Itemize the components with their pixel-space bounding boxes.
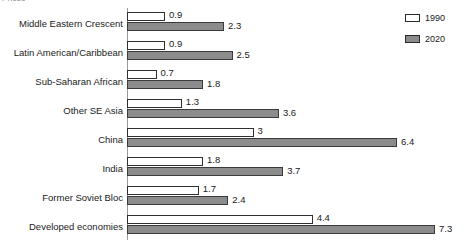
bar-row: Latin American/Caribbean0.92.5 bbox=[0, 39, 467, 68]
bar-value-label: 0.9 bbox=[169, 39, 182, 48]
bar-row: China36.4 bbox=[0, 126, 467, 155]
bar-1990 bbox=[127, 99, 182, 108]
bar-value-label: 1.8 bbox=[207, 155, 220, 164]
category-label: Middle Eastern Crescent bbox=[0, 18, 123, 29]
bar-value-label: 2.5 bbox=[237, 50, 250, 59]
category-label: China bbox=[0, 134, 123, 145]
bar-row: Other SE Asia1.33.6 bbox=[0, 97, 467, 126]
bar-value-label: 4.4 bbox=[317, 213, 330, 222]
bar-2020 bbox=[127, 51, 233, 60]
bar-1990 bbox=[127, 157, 203, 166]
bar-1990 bbox=[127, 186, 199, 195]
bar-1990 bbox=[127, 128, 254, 137]
bar-2020 bbox=[127, 80, 203, 89]
bar-value-label: 1.3 bbox=[186, 97, 199, 106]
bar-1990 bbox=[127, 215, 313, 224]
chart-screenshot: Prices 1990 2020 Middle Eastern Crescent… bbox=[0, 0, 467, 249]
cropped-title-text: Prices bbox=[2, 0, 25, 3]
category-label: India bbox=[0, 163, 123, 174]
category-label: Developed economies bbox=[0, 221, 123, 232]
bar-2020 bbox=[127, 109, 279, 118]
bar-2020 bbox=[127, 22, 224, 31]
bar-row: India1.83.7 bbox=[0, 155, 467, 184]
bar-value-label: 3.7 bbox=[287, 166, 300, 175]
bar-value-label: 1.8 bbox=[207, 79, 220, 88]
bar-row: Sub-Saharan African0.71.8 bbox=[0, 68, 467, 97]
category-label: Sub-Saharan African bbox=[0, 76, 123, 87]
bar-value-label: 0.7 bbox=[161, 68, 174, 77]
bar-value-label: 2.3 bbox=[228, 21, 241, 30]
bar-2020 bbox=[127, 225, 435, 234]
bar-2020 bbox=[127, 167, 283, 176]
category-label: Latin American/Caribbean bbox=[0, 47, 123, 58]
bar-1990 bbox=[127, 12, 165, 21]
plot-area: Middle Eastern Crescent0.92.3Latin Ameri… bbox=[0, 8, 467, 244]
bar-row: Developed economies4.47.3 bbox=[0, 213, 467, 242]
bar-1990 bbox=[127, 70, 157, 79]
bar-2020 bbox=[127, 196, 228, 205]
bar-value-label: 3 bbox=[258, 126, 263, 135]
category-label: Former Soviet Bloc bbox=[0, 192, 123, 203]
bar-1990 bbox=[127, 41, 165, 50]
bar-value-label: 1.7 bbox=[203, 184, 216, 193]
bar-value-label: 0.9 bbox=[169, 10, 182, 19]
bar-row: Former Soviet Bloc1.72.4 bbox=[0, 184, 467, 213]
bar-value-label: 2.4 bbox=[232, 195, 245, 204]
category-label: Other SE Asia bbox=[0, 105, 123, 116]
bar-value-label: 6.4 bbox=[401, 137, 414, 146]
bar-value-label: 3.6 bbox=[283, 108, 296, 117]
bar-2020 bbox=[127, 138, 397, 147]
bar-row: Middle Eastern Crescent0.92.3 bbox=[0, 10, 467, 39]
bar-value-label: 7.3 bbox=[439, 224, 452, 233]
